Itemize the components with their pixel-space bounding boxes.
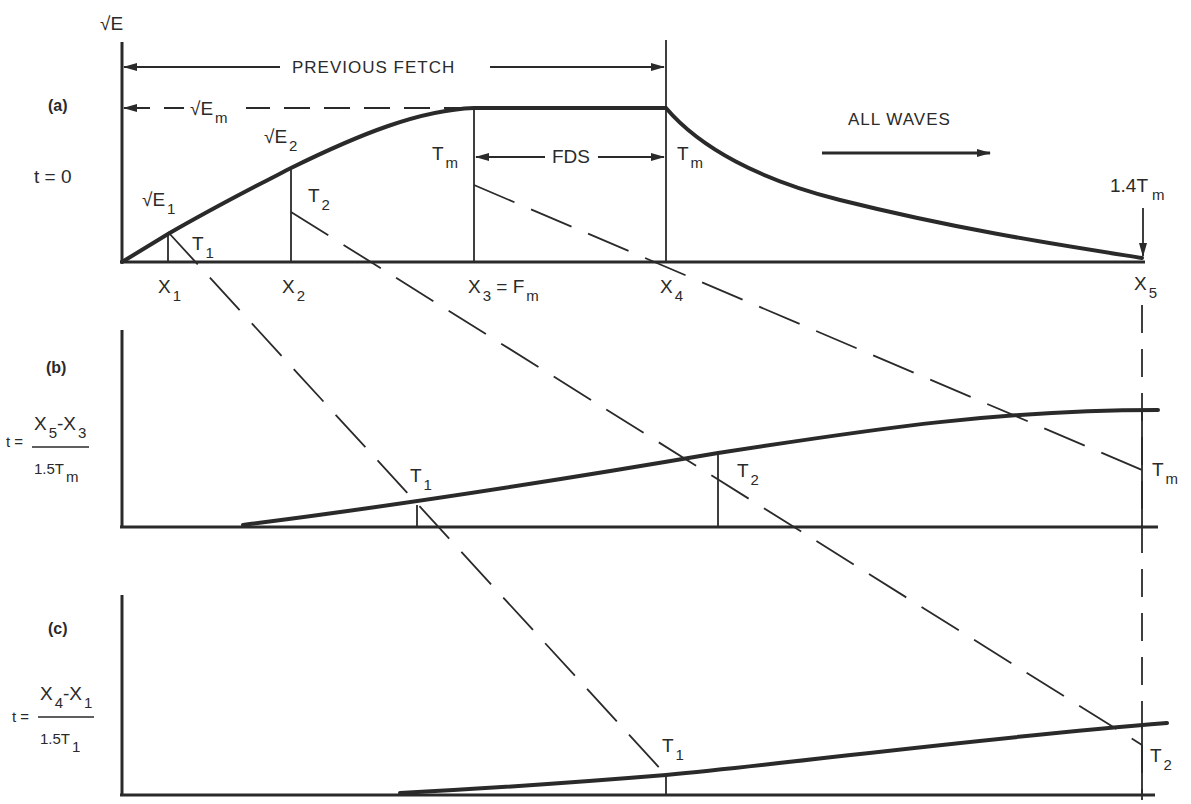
x1-label: X1 xyxy=(158,276,181,304)
x2-label: X2 xyxy=(282,276,305,304)
y-axis-label-sqrt-e: √E xyxy=(100,13,123,34)
panel-b-numerator: X5-X3 xyxy=(34,413,86,441)
panel-b-tm-label: Tm xyxy=(1152,459,1178,487)
panel-c-denominator: 1.5T1 xyxy=(40,730,80,755)
panel-c-tag: (c) xyxy=(48,620,68,637)
fds-label: FDS xyxy=(552,146,590,167)
panel-b-tag: (b) xyxy=(46,359,66,376)
x5-label: X5 xyxy=(1134,273,1157,301)
panel-b-time-prefix: t = xyxy=(6,433,23,450)
panel-c-t2-label: T2 xyxy=(1150,745,1172,773)
panel-a-tag: (a) xyxy=(48,97,68,114)
panel-c-numerator: X4-X1 xyxy=(40,683,92,711)
panel-b-t1-label: T1 xyxy=(410,465,432,493)
panel-a-time-label: t = 0 xyxy=(34,166,72,187)
t14-label: 1.4Tm xyxy=(1110,175,1165,203)
panel-c-t1-label: T1 xyxy=(662,735,684,763)
wave-growth-diagram: PREVIOUS FETCH FDS ALL WAVES 1.4Tm (a) t… xyxy=(0,0,1191,804)
panel-a: PREVIOUS FETCH FDS ALL WAVES 1.4Tm (a) t… xyxy=(34,13,1165,304)
previous-fetch-label: PREVIOUS FETCH xyxy=(292,58,455,77)
characteristic-lines xyxy=(168,185,1142,800)
panel-b-energy-curve xyxy=(243,410,1158,525)
x4-label: X4 xyxy=(660,276,683,304)
panel-b-t2-label: T2 xyxy=(737,460,759,488)
t1-label-a: T1 xyxy=(192,233,214,261)
e1-label: √E1 xyxy=(142,189,175,217)
t1-characteristic xyxy=(168,232,666,775)
panel-b-denominator: 1.5Tm xyxy=(34,460,79,485)
tm-characteristic xyxy=(474,185,1142,470)
tm-label-a-right: Tm xyxy=(677,143,703,171)
t2-label-a: T2 xyxy=(308,185,330,213)
panel-b: (b) t = X5-X3 1.5Tm T1 T2 Tm xyxy=(6,330,1178,528)
e2-label: √E2 xyxy=(264,126,297,154)
x3-label: X3 = Fm xyxy=(468,276,539,304)
tm-label-a-left: Tm xyxy=(432,143,458,171)
panel-c-time-prefix: t = xyxy=(12,708,29,725)
all-waves-label: ALL WAVES xyxy=(848,110,951,129)
panel-c-energy-curve xyxy=(400,723,1167,793)
